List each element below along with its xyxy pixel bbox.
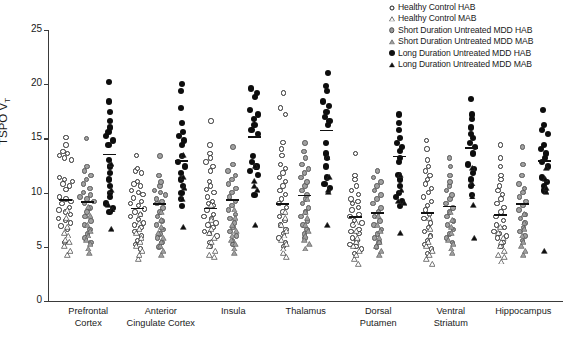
data-point [201, 214, 206, 219]
median-bar [393, 156, 406, 158]
data-point [540, 107, 546, 113]
data-point [134, 153, 139, 158]
y-tick-25 [44, 30, 48, 31]
median-bar [465, 147, 478, 149]
data-point [283, 166, 288, 171]
legend-item-3[interactable]: Short Duration Untreated MDD MAB [386, 36, 574, 47]
data-point [208, 209, 215, 215]
data-point [251, 170, 258, 176]
data-point [498, 155, 503, 160]
y-tick-label-25: 25 [20, 23, 42, 34]
data-point [397, 135, 403, 141]
scatter-plot-figure: Healthy Control HABHealthy Control MABSh… [0, 0, 575, 345]
data-point [63, 135, 68, 140]
legend-item-0[interactable]: Healthy Control HAB [386, 2, 574, 13]
data-point [468, 96, 474, 102]
data-point [128, 201, 133, 206]
chart-legend: Healthy Control HABHealthy Control MABSh… [386, 2, 574, 70]
data-point [359, 220, 364, 225]
legend-item-label: Long Duration Untreated MDD MAB [397, 59, 532, 70]
median-bar [276, 203, 289, 205]
data-point [471, 227, 478, 233]
data-point [208, 194, 215, 200]
y-tick-0 [44, 301, 48, 302]
x-axis-line [48, 301, 563, 302]
data-point [140, 192, 145, 197]
data-point [278, 105, 283, 110]
data-point [354, 183, 359, 188]
data-point [424, 146, 429, 151]
median-bar [248, 136, 261, 138]
x-axis-label-line: Hippocampus [478, 306, 568, 318]
data-point [108, 218, 115, 224]
median-bar [320, 130, 333, 132]
triangle-gray-icon [386, 36, 397, 47]
data-point [326, 103, 332, 109]
data-point [280, 170, 285, 175]
data-point [255, 111, 261, 117]
data-point [497, 216, 504, 222]
data-point [498, 142, 503, 147]
data-point [70, 179, 75, 184]
data-point [349, 188, 354, 193]
legend-item-4[interactable]: Long Duration Untreated MDD HAB [386, 48, 574, 59]
y-tick-label-10: 10 [20, 186, 42, 197]
data-point [468, 124, 474, 130]
data-point [208, 118, 213, 123]
y-axis-title: TSPO VT [0, 98, 12, 145]
data-point [520, 144, 526, 150]
data-point [377, 220, 384, 226]
data-point [81, 181, 87, 187]
data-point [424, 138, 429, 143]
median-bar [204, 208, 217, 210]
data-point [179, 203, 185, 209]
data-point [280, 140, 285, 145]
y-tick-label-5: 5 [20, 240, 42, 251]
data-point [470, 150, 476, 156]
data-point [519, 173, 525, 179]
median-bar [516, 203, 529, 205]
y-tick-20 [44, 84, 48, 85]
data-point [541, 122, 547, 128]
data-point [541, 240, 548, 246]
data-point [156, 173, 162, 179]
data-point [67, 183, 72, 188]
data-point [138, 183, 143, 188]
data-point [299, 162, 305, 168]
data-point [326, 118, 332, 124]
data-point [468, 131, 474, 137]
data-point [84, 164, 90, 170]
data-point [356, 205, 361, 210]
data-point [279, 153, 284, 158]
data-point [399, 144, 405, 150]
median-bar [131, 208, 144, 210]
data-point [522, 186, 528, 192]
data-point [247, 107, 253, 113]
circle-gray-icon [386, 25, 397, 36]
median-bar [494, 214, 507, 216]
legend-item-2[interactable]: Short Duration Untreated MDD HAB [386, 25, 574, 36]
data-point [152, 188, 158, 194]
legend-item-1[interactable]: Healthy Control MAB [386, 13, 574, 24]
data-point [323, 109, 329, 115]
data-point [498, 173, 503, 178]
data-point [179, 81, 185, 87]
data-point [421, 194, 426, 199]
median-bar [81, 201, 94, 203]
data-point [158, 179, 164, 185]
x-axis-label-6: Hippocampus [478, 306, 568, 318]
data-point [107, 170, 113, 176]
data-point [348, 196, 353, 201]
data-point [429, 186, 434, 191]
data-point [56, 207, 61, 212]
data-point [302, 140, 308, 146]
legend-item-label: Short Duration Untreated MDD HAB [397, 25, 532, 36]
data-point [371, 175, 377, 181]
data-point [449, 192, 455, 198]
legend-item-5[interactable]: Long Duration Untreated MDD MAB [386, 59, 574, 70]
data-point [427, 173, 432, 178]
data-point [109, 198, 116, 204]
data-point [84, 136, 90, 142]
data-point [107, 118, 113, 124]
data-point [207, 142, 212, 147]
